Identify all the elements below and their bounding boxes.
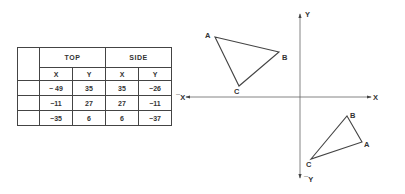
pos-x-axis-label: X xyxy=(373,93,378,102)
top-vertex-b-label: B xyxy=(282,53,288,62)
pos-y-axis-label: Y xyxy=(305,10,310,19)
top-vertex-c-label: C xyxy=(234,87,240,96)
side-vertex-c-label: C xyxy=(306,160,312,169)
top-vertex-a-label: A xyxy=(205,31,211,40)
side-view-triangle xyxy=(311,116,362,159)
side-vertex-a-label: A xyxy=(364,140,370,149)
axes-and-triangles: X ¯X Y ¯Y A B C A B C xyxy=(0,0,405,194)
coordinate-diagram: TOP SIDE X Y X Y − 49 35 35 −26 −11 27 2… xyxy=(0,0,405,194)
top-view-triangle xyxy=(215,37,279,86)
side-vertex-b-label: B xyxy=(350,111,356,120)
neg-y-axis-label: ¯Y xyxy=(303,175,313,184)
neg-x-axis-label: ¯X xyxy=(175,93,185,102)
